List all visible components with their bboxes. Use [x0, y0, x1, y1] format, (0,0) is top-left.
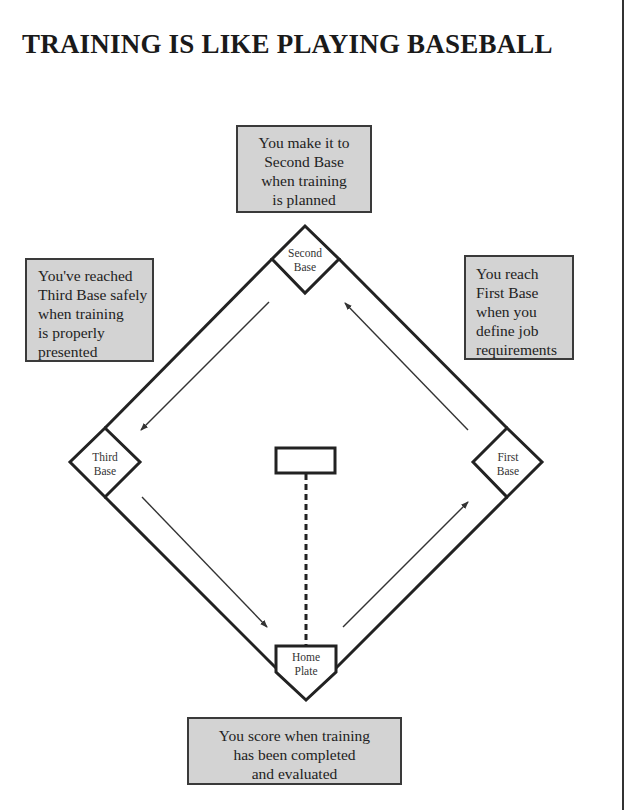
callout-line: define job — [476, 321, 572, 340]
callout-line: First Base — [476, 283, 572, 302]
third-base-label: Third Base — [77, 450, 133, 478]
home-plate-label-line1: Home — [278, 650, 334, 664]
callout-line: is planned — [238, 190, 370, 209]
callout-line: and evaluated — [189, 764, 400, 783]
callout-line: presented — [38, 342, 152, 361]
callout-third-base: You've reached Third Base safely when tr… — [25, 258, 154, 362]
callout-home: You score when training has been complet… — [187, 717, 402, 785]
second-base-label-line2: Base — [277, 260, 333, 274]
callout-line: when you — [476, 302, 572, 321]
second-base-label: Second Base — [277, 246, 333, 274]
first-base-label-line2: Base — [480, 464, 536, 478]
callout-second-base: You make it to Second Base when training… — [236, 125, 372, 213]
third-base-label-line1: Third — [77, 450, 133, 464]
callout-line: You've reached — [38, 266, 152, 285]
second-base-label-line1: Second — [277, 246, 333, 260]
first-base-label: First Base — [480, 450, 536, 478]
home-plate-label: Home Plate — [278, 650, 334, 678]
callout-line: You score when training — [189, 726, 400, 745]
arrow-first-to-second — [345, 303, 468, 430]
third-base-label-line2: Base — [77, 464, 133, 478]
callout-line: is properly — [38, 323, 152, 342]
callout-first-base: You reach First Base when you define job… — [464, 255, 574, 360]
first-base-label-line1: First — [480, 450, 536, 464]
callout-line: You make it to — [238, 133, 370, 152]
callout-line: when training — [38, 304, 152, 323]
baseball-diamond-diagram — [0, 0, 628, 810]
pitchers-mound-shape — [276, 448, 335, 473]
arrow-second-to-third — [141, 302, 269, 430]
home-plate-label-line2: Plate — [278, 664, 334, 678]
callout-line: Third Base safely — [38, 285, 152, 304]
callout-line: has been completed — [189, 745, 400, 764]
callout-line: Second Base — [238, 152, 370, 171]
arrow-home-to-first — [343, 502, 468, 627]
arrow-third-to-home — [142, 497, 267, 627]
callout-line: You reach — [476, 264, 572, 283]
callout-line: requirements — [476, 340, 572, 359]
callout-line: when training — [238, 171, 370, 190]
